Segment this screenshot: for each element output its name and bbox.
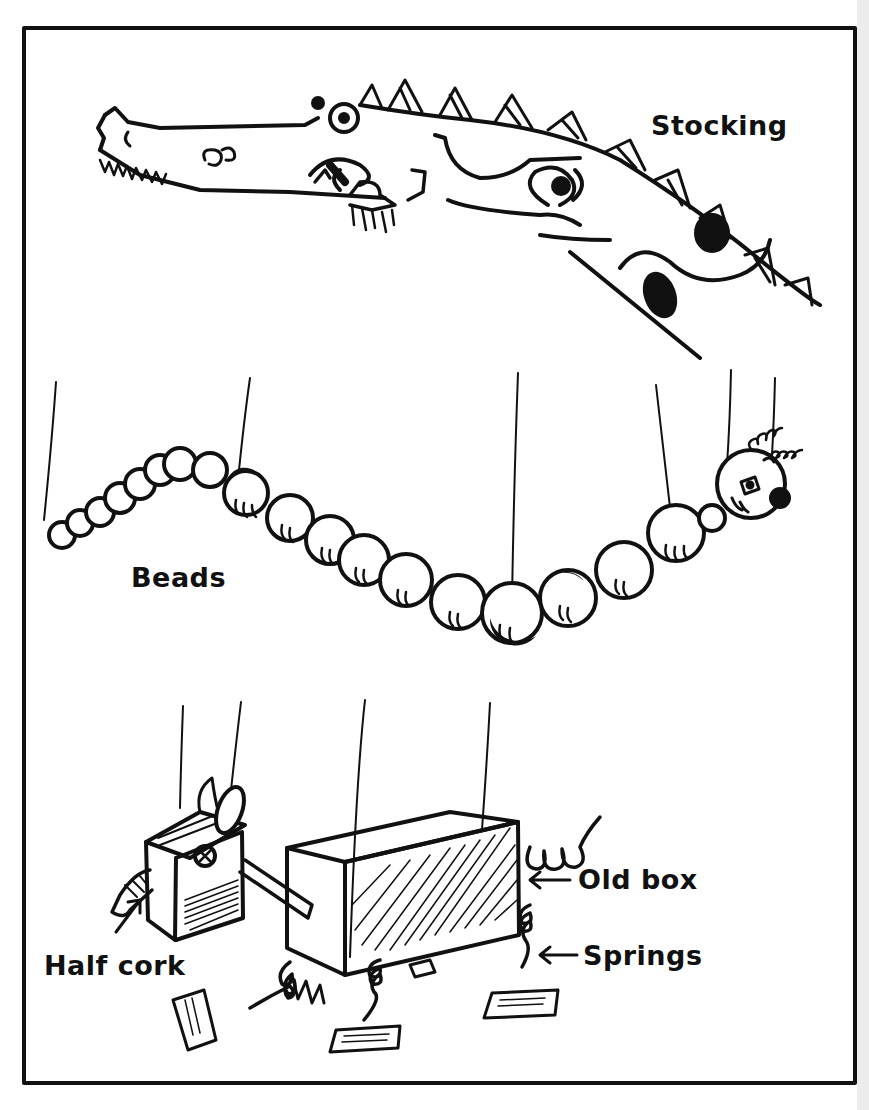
label-half-cork: Half cork (44, 950, 186, 981)
box-dog-drawing (112, 700, 600, 1052)
caterpillar-drawing (44, 370, 802, 645)
label-springs: Springs (583, 940, 702, 971)
illustration-canvas (0, 0, 869, 1110)
label-beads: Beads (131, 562, 226, 593)
label-old-box: Old box (578, 864, 698, 895)
frame-border (24, 28, 855, 1083)
label-stocking: Stocking (651, 110, 788, 141)
